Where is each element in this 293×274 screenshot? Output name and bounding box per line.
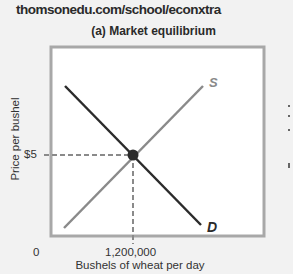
x-tick-quantity: 1,200,000 (105, 246, 156, 258)
y-axis-label: Price per bushel (9, 84, 21, 194)
clipped-adjacent-panel (286, 105, 292, 185)
equilibrium-point (128, 150, 139, 161)
supply-label: S (209, 75, 218, 90)
y-tick-price: $5 (24, 148, 37, 160)
x-tick-origin: 0 (33, 246, 39, 258)
demand-label: D (207, 219, 217, 235)
market-equilibrium-chart (0, 0, 293, 274)
x-axis-label: Bushels of wheat per day (70, 259, 210, 271)
